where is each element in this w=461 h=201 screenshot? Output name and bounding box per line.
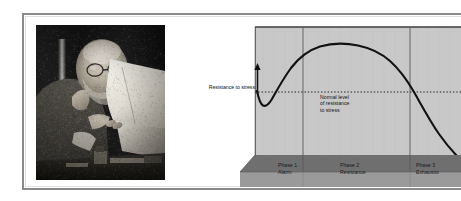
freud-photograph-canvas [36, 25, 165, 180]
phase-3-label: Phase 3 Exhaustio [416, 162, 439, 175]
phase-2-subtitle: Resistance [340, 169, 366, 176]
phase-1-label: Phase 1 Alarm [278, 162, 297, 175]
phase-1-subtitle: Alarm [278, 169, 297, 176]
resistance-axis-label: Resistance to stress [195, 84, 255, 90]
normal-level-line-2: of resistance [320, 100, 349, 106]
normal-level-annotation: Normal level of resistance to stress [320, 94, 349, 113]
phase-2-label: Phase 2 Resistance [340, 162, 366, 175]
normal-level-line-3: to stress [320, 107, 349, 113]
phase-3-name: Phase 3 [416, 162, 439, 169]
phase-2-name: Phase 2 [340, 162, 366, 169]
phase-1-name: Phase 1 [278, 162, 297, 169]
phase-3-subtitle: Exhaustio [416, 169, 439, 176]
stress-response-chart: Normal level of resistance to stress Pha… [236, 22, 461, 187]
page-root: Normal level of resistance to stress Pha… [0, 0, 461, 201]
freud-photograph [36, 25, 165, 180]
